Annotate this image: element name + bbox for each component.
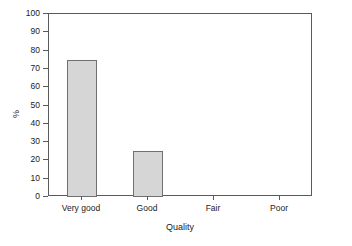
x-axis-tick-mark [81, 196, 82, 200]
bar-chart: % 1009080706050403020100 Very goodGoodFa… [0, 0, 352, 246]
x-axis-tick-mark [279, 196, 280, 200]
bar-good [133, 151, 163, 197]
y-axis-tick-label: 90 [0, 25, 40, 37]
x-axis-tick-label: Poor [234, 202, 324, 214]
y-axis-tick-label: 0 [0, 190, 40, 202]
x-axis-tick-mark [147, 196, 148, 200]
y-axis-tick-label: 40 [0, 117, 40, 129]
y-axis-tick-label: 50 [0, 99, 40, 111]
plot-area [48, 13, 312, 196]
y-axis-tick-label: 80 [0, 44, 40, 56]
x-axis-tick-mark [213, 196, 214, 200]
y-axis-tick-label: 20 [0, 153, 40, 165]
x-axis-title: Quality [48, 221, 312, 233]
y-axis-tick-mark [43, 196, 48, 197]
y-axis-tick-label: 100 [0, 7, 40, 19]
y-axis-tick-label: 60 [0, 80, 40, 92]
y-axis-tick-label: 70 [0, 62, 40, 74]
bar-very-good [67, 60, 97, 197]
y-axis-tick-label: 10 [0, 172, 40, 184]
y-axis-tick-label: 30 [0, 135, 40, 147]
bars-group [49, 14, 313, 197]
